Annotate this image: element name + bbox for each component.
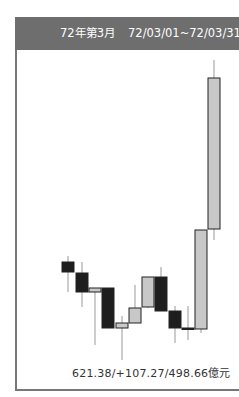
candle [76,262,88,307]
candle-body [102,288,114,328]
candle [208,60,220,240]
candle-body [208,78,220,229]
candle [102,288,114,328]
candle [155,267,167,311]
candle [195,230,207,333]
candle-body [155,277,167,311]
candle-body [89,288,101,292]
candle [62,256,74,292]
candle-body [195,230,207,329]
candle [169,306,181,343]
candle-body [142,277,154,307]
candle [116,316,128,360]
candle [182,306,194,340]
candle-body [76,273,88,292]
summary-label: 621.38/+107.27/498.66億元 [72,364,231,380]
candle-body [62,262,74,272]
candle-body [182,328,194,330]
candle [89,288,101,345]
candle [129,285,141,323]
candle [142,277,154,308]
candle-body [129,308,141,323]
candle-body [116,323,128,328]
candle-body [169,311,181,328]
candlestick-chart [0,0,239,397]
